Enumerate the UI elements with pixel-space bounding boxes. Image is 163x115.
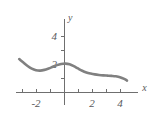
x-tick-label: 4: [117, 97, 123, 109]
y-tick-label: 4: [52, 30, 58, 42]
data-curve: [19, 59, 127, 80]
graph-figure: -224 24 x y: [0, 0, 163, 115]
x-tick-label: -2: [31, 97, 41, 109]
x-tick-label: 2: [89, 97, 95, 109]
plot-svg: -224 24 x y: [0, 0, 163, 115]
y-axis-label: y: [67, 12, 73, 23]
x-axis-tick-labels: -224: [31, 97, 123, 109]
x-axis-label: x: [141, 82, 147, 93]
